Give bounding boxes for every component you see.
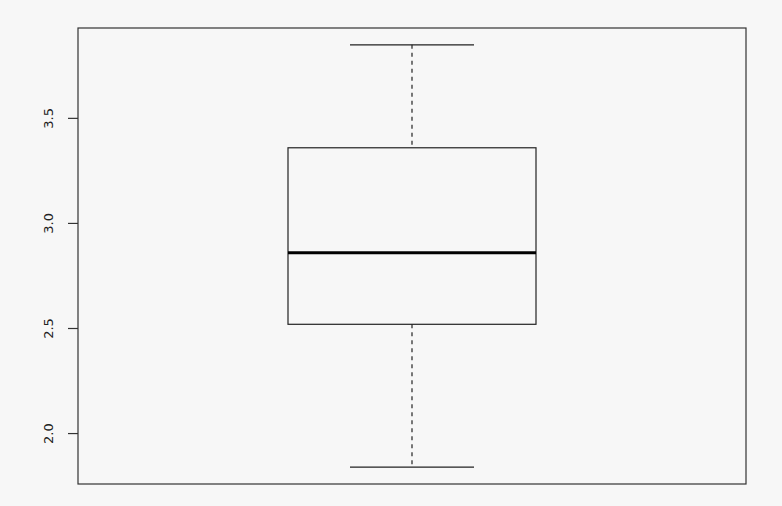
y-tick-label: 3.0 (42, 213, 57, 234)
y-tick-label: 3.5 (42, 108, 57, 129)
y-axis: 2.02.53.03.5 (42, 108, 79, 444)
y-tick-label: 2.5 (42, 318, 57, 339)
y-tick-label: 2.0 (42, 423, 57, 444)
boxplot-chart: 2.02.53.03.5 (0, 0, 782, 506)
iqr-box (288, 148, 536, 325)
box-plot (288, 45, 536, 467)
